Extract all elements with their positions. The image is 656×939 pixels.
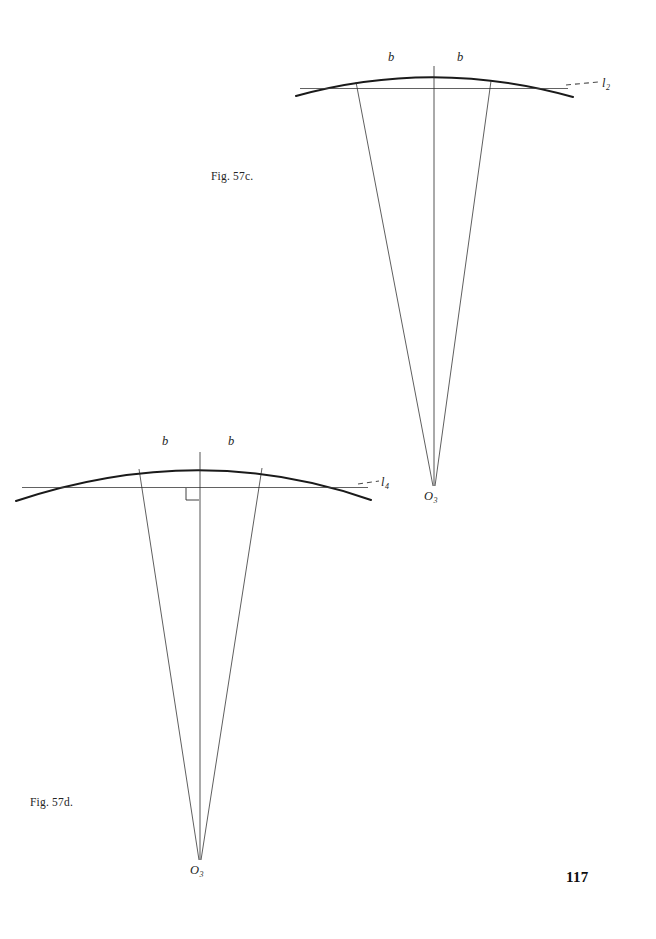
fig-57d-ray-left bbox=[139, 469, 199, 860]
fig-57d-right-angle-marker bbox=[186, 488, 199, 500]
fig-57c-baseline-subscript: 2 bbox=[606, 83, 610, 92]
fig-57d-arc-label-b-left: b bbox=[162, 434, 168, 449]
fig-57d-arc-label-b-right: b bbox=[228, 434, 234, 449]
fig-57c-vertex-subscript: 3 bbox=[434, 496, 438, 505]
fig-57d-vertex-subscript: 3 bbox=[200, 870, 204, 879]
fig-57d-vertex-label: O3 bbox=[190, 863, 203, 878]
fig-57c-ray-left bbox=[356, 82, 433, 486]
document-page: Fig. 57c. b b l2 O3 Fig. 57d. b b l4 O3 … bbox=[0, 0, 656, 939]
fig-57d-arc bbox=[16, 470, 371, 501]
fig-57c-arc bbox=[296, 77, 573, 97]
fig-57c-vertex-label: O3 bbox=[424, 489, 437, 504]
fig-57c-baseline-dashed-extension bbox=[566, 82, 598, 85]
fig-57d-baseline-subscript: 4 bbox=[385, 482, 389, 491]
fig-57c-arc-label-b-right: b bbox=[457, 50, 463, 65]
fig-57c-arc-label-b-left: b bbox=[388, 50, 394, 65]
page-number: 117 bbox=[566, 869, 589, 886]
fig-57d-baseline-label: l4 bbox=[381, 475, 388, 490]
fig-57d-vertex-letter: O bbox=[190, 863, 199, 877]
fig-57d-baseline-dashed-extension bbox=[358, 481, 379, 484]
figure-57c-caption: Fig. 57c. bbox=[211, 170, 253, 182]
figure-57d-caption: Fig. 57d. bbox=[30, 796, 73, 808]
fig-57c-vertex-letter: O bbox=[424, 489, 433, 503]
figures-drawing-canvas bbox=[0, 0, 656, 939]
fig-57c-ray-right bbox=[435, 81, 491, 486]
fig-57c-baseline-label: l2 bbox=[602, 76, 609, 91]
fig-57d-baseline-letter: l bbox=[381, 475, 384, 489]
fig-57d-ray-right bbox=[201, 468, 262, 860]
fig-57c-baseline-letter: l bbox=[602, 76, 605, 90]
figure-57c-group bbox=[296, 66, 598, 486]
